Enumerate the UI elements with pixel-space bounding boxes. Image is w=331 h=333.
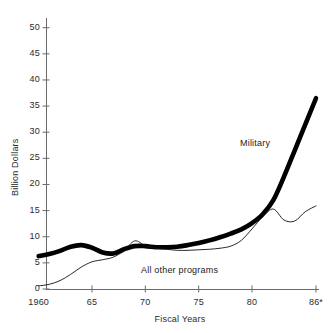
x-axis-tick-label: 75 bbox=[179, 297, 219, 307]
y-axis-tick-label: 40 bbox=[14, 74, 40, 84]
axis-lines bbox=[46, 18, 319, 290]
series-line-military bbox=[39, 98, 316, 256]
x-axis-tick-label: 70 bbox=[125, 297, 165, 307]
y-axis-tick-label: 45 bbox=[14, 48, 40, 58]
y-axis-tick-label: 50 bbox=[14, 22, 40, 32]
y-axis-tick-label: 30 bbox=[14, 126, 40, 136]
x-axis-title: Fiscal Years bbox=[120, 314, 240, 324]
y-axis-tick-label: 5 bbox=[14, 257, 40, 267]
x-axis-tick-label: 65 bbox=[72, 297, 112, 307]
all-other-programs-series-label: All other programs bbox=[141, 265, 218, 275]
plot-area bbox=[0, 0, 331, 333]
x-axis-tick-label: 80 bbox=[232, 297, 272, 307]
military-series-label: Military bbox=[240, 138, 270, 148]
chart-figure: 05101520253035404550 19606570758086* Bil… bbox=[0, 0, 331, 333]
y-axis-tick-label: 15 bbox=[14, 205, 40, 215]
data-series-group bbox=[39, 98, 316, 286]
y-axis-tick-label: 0 bbox=[14, 283, 40, 293]
y-axis-title: Billion Dollars bbox=[10, 138, 20, 196]
y-axis-tick-label: 35 bbox=[14, 100, 40, 110]
x-axis-tick-label: 86* bbox=[296, 297, 331, 307]
x-axis-tick-label: 1960 bbox=[19, 297, 59, 307]
y-axis-tick-label: 10 bbox=[14, 231, 40, 241]
